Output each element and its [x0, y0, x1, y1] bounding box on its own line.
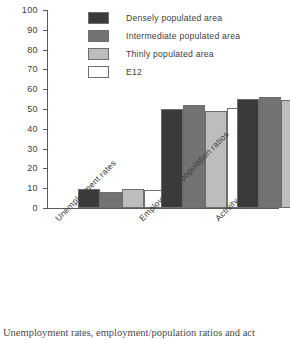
- legend-swatch-icon: [88, 48, 109, 60]
- chart-legend: Densely populated areaIntermediate popul…: [88, 9, 278, 81]
- y-axis-tick-label: 30: [27, 144, 38, 154]
- legend-swatch-icon: [88, 12, 109, 24]
- y-axis-tick: 30: [43, 149, 47, 150]
- y-axis-tick-label: 10: [27, 183, 38, 193]
- y-axis-tick: 80: [43, 50, 47, 51]
- legend-item: E12: [88, 63, 278, 81]
- legend-label: Thinly populated area: [126, 49, 214, 59]
- y-axis-line: [47, 10, 48, 209]
- bar: [259, 97, 281, 208]
- y-axis-tick: 100: [43, 10, 47, 11]
- legend-swatch-icon: [88, 30, 109, 42]
- y-axis-tick: 70: [43, 69, 47, 70]
- y-axis-tick-label: 70: [27, 64, 38, 74]
- bar-chart-figure: 0102030405060708090100 Unemployment rate…: [0, 0, 290, 340]
- legend-item: Densely populated area: [88, 9, 278, 27]
- y-axis-tick: 40: [43, 129, 47, 130]
- bar: [281, 100, 290, 208]
- bar: [100, 192, 122, 208]
- y-axis-tick-label: 60: [27, 84, 38, 94]
- legend-swatch-icon: [88, 66, 109, 78]
- legend-item: Intermediate populated area: [88, 27, 278, 45]
- legend-label: E12: [126, 67, 142, 77]
- y-axis-tick: 90: [43, 30, 47, 31]
- bar: [205, 111, 227, 208]
- y-axis-tick-label: 20: [27, 163, 38, 173]
- legend-label: Intermediate populated area: [126, 31, 240, 41]
- figure-caption: Unemployment rates, employment/populatio…: [3, 327, 290, 338]
- y-axis-tick: 0: [43, 208, 47, 209]
- y-axis-tick-label: 50: [27, 104, 38, 114]
- y-axis-tick-label: 100: [22, 5, 38, 15]
- y-axis-tick-label: 80: [27, 45, 38, 55]
- y-axis-tick-label: 40: [27, 124, 38, 134]
- bar: [122, 189, 144, 208]
- legend-label: Densely populated area: [126, 13, 222, 23]
- y-axis-tick: 10: [43, 188, 47, 189]
- y-axis-tick-label: 90: [27, 25, 38, 35]
- y-axis-tick: 50: [43, 109, 47, 110]
- legend-item: Thinly populated area: [88, 45, 278, 63]
- y-axis-tick: 60: [43, 89, 47, 90]
- y-axis-tick: 20: [43, 168, 47, 169]
- y-axis-tick-label: 0: [33, 203, 38, 213]
- x-axis-line: [47, 208, 279, 209]
